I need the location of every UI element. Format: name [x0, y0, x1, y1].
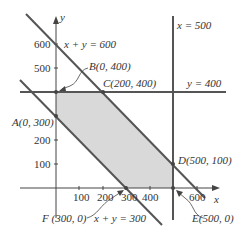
- label-y-400: y = 400: [186, 77, 222, 89]
- arrow-b: [59, 86, 66, 91]
- label-vertex-e: E(500, 0): [191, 212, 234, 225]
- label-vertex-f: F (300, 0): [41, 212, 87, 225]
- leader-b: [62, 68, 88, 89]
- label-vertex-a: A(0, 300): [11, 116, 54, 129]
- feasible-region-graph: y x 100 200 300 400 600 100 200 500 600 …: [0, 0, 245, 239]
- label-x-plus-y-300: x + y = 300: [93, 212, 147, 224]
- label-x-plus-y-600: x + y = 600: [63, 38, 117, 50]
- x-tick-100: 100: [73, 191, 90, 203]
- label-vertex-b: B(0, 400): [89, 60, 131, 73]
- x-axis-label: x: [213, 193, 219, 205]
- label-x-500: x = 500: [176, 19, 212, 31]
- x-tick-400: 400: [142, 191, 159, 203]
- x-axis-arrow: [212, 185, 220, 191]
- label-vertex-c: C(200, 400): [103, 77, 157, 90]
- x-tick-300: 300: [121, 191, 138, 203]
- label-vertex-d: D(500, 100): [177, 154, 232, 167]
- y-axis-arrow: [53, 16, 59, 24]
- y-tick-100: 100: [34, 158, 51, 170]
- x-tick-600: 600: [189, 191, 206, 203]
- y-tick-200: 200: [34, 134, 51, 146]
- x-tick-200: 200: [97, 191, 114, 203]
- y-tick-600: 600: [34, 38, 51, 50]
- y-axis-label: y: [59, 11, 65, 23]
- y-tick-500: 500: [34, 62, 51, 74]
